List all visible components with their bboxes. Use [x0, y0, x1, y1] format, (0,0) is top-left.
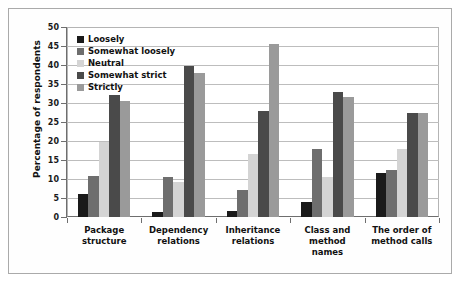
x-axis-tick-mark [365, 218, 366, 223]
legend-label: Strictly [88, 83, 123, 92]
legend-swatch-icon [77, 36, 84, 43]
x-axis-group-label-line: Dependency [141, 225, 215, 236]
chart-figure: Percentage of respondents 05101520253035… [8, 8, 452, 274]
bar-group [290, 27, 364, 217]
bar [343, 97, 354, 217]
x-axis-group-label-line: relations [216, 236, 290, 247]
legend-item: Strictly [77, 82, 175, 93]
bar [109, 95, 120, 217]
bar [194, 73, 205, 217]
bar [407, 113, 418, 218]
bar-group [216, 27, 290, 217]
x-axis-group-label: Class andmethodnames [290, 225, 364, 258]
y-axis-tick-label: 0 [13, 213, 59, 222]
bar [376, 173, 387, 217]
y-axis-tick-label: 50 [13, 23, 59, 32]
x-axis-tick-mark [216, 218, 217, 223]
bar [397, 149, 408, 217]
bar [312, 149, 323, 217]
x-axis-group-label-line: structure [67, 236, 141, 247]
bar [120, 101, 131, 217]
x-axis-tick-mark [439, 218, 440, 223]
x-axis-group-label-line: relations [141, 236, 215, 247]
legend-item: Neutral [77, 58, 175, 69]
bar [333, 92, 344, 217]
y-axis-tick-label: 25 [13, 118, 59, 127]
y-axis-tick-label: 20 [13, 137, 59, 146]
legend-label: Loosely [88, 35, 124, 44]
x-axis-group-label-line: Class and [290, 225, 364, 236]
bar [386, 170, 397, 218]
x-axis-group-label: The order ofmethod calls [365, 225, 439, 247]
y-axis-tick-label: 45 [13, 42, 59, 51]
bar [237, 190, 248, 217]
x-axis-group-label-line: Inheritance [216, 225, 290, 236]
legend-item: Somewhat loosely [77, 46, 175, 57]
x-axis-group-label: Inheritancerelations [216, 225, 290, 247]
y-axis-tick-label: 15 [13, 156, 59, 165]
x-axis-group-label-line: method calls [365, 236, 439, 247]
y-axis-tick-label: 5 [13, 194, 59, 203]
x-axis-group-label: Packagestructure [67, 225, 141, 247]
bar [269, 44, 280, 217]
bar [248, 154, 259, 217]
x-axis-group-label: Dependencyrelations [141, 225, 215, 247]
chart-legend: LooselySomewhat looselyNeutralSomewhat s… [75, 33, 177, 95]
x-axis-group-label-line: The order of [365, 225, 439, 236]
y-axis-tick-label: 10 [13, 175, 59, 184]
y-axis-tick-label: 35 [13, 80, 59, 89]
legend-item: Somewhat strict [77, 70, 175, 81]
x-axis-tick-mark [67, 218, 68, 223]
x-axis-group-label-line: Package [67, 225, 141, 236]
legend-swatch-icon [77, 84, 84, 91]
bar [88, 176, 99, 217]
bar [301, 202, 312, 217]
bar [322, 177, 333, 217]
legend-item: Loosely [77, 34, 175, 45]
bar [227, 211, 238, 217]
legend-label: Somewhat loosely [88, 47, 175, 56]
legend-label: Somewhat strict [88, 71, 167, 80]
bar [78, 194, 89, 217]
bar [163, 177, 174, 217]
x-axis-tick-mark [141, 218, 142, 223]
x-axis-tick-mark [290, 218, 291, 223]
legend-swatch-icon [77, 72, 84, 79]
legend-label: Neutral [88, 59, 124, 68]
x-axis-group-label-line: method [290, 236, 364, 247]
bar [173, 182, 184, 217]
legend-swatch-icon [77, 60, 84, 67]
y-axis-tick-labels: 05101520253035404550 [9, 27, 59, 217]
legend-swatch-icon [77, 48, 84, 55]
bar [99, 142, 110, 217]
x-axis-group-label-line: names [290, 247, 364, 258]
bar-group [365, 27, 439, 217]
y-axis-tick-label: 40 [13, 61, 59, 70]
bar [418, 113, 429, 218]
y-axis-tick-label: 30 [13, 99, 59, 108]
bar [184, 66, 195, 217]
bar [258, 111, 269, 217]
bar [152, 212, 163, 217]
